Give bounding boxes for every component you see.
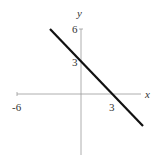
x-tick-label-3: 3: [109, 101, 115, 113]
y-tick-label-3: 3: [72, 56, 78, 68]
x-axis-label: x: [144, 88, 150, 100]
data-line: [50, 29, 143, 126]
line-graph: y x -6 3 6 3: [0, 0, 159, 161]
y-tick-label-6: 6: [72, 23, 78, 35]
x-tick-label-neg6: -6: [12, 101, 22, 113]
y-axis-label: y: [76, 7, 82, 19]
